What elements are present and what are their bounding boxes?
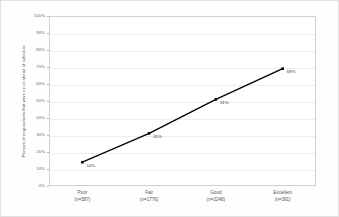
y-axis-tick-mark: [47, 152, 49, 153]
x-axis-category-count: (n=1776): [140, 196, 159, 203]
y-axis-tick-label: 80%: [23, 48, 45, 52]
y-axis-tick-mark: [47, 101, 49, 102]
x-axis-category-count: (n=391): [273, 196, 292, 203]
data-point-label: 14%: [86, 164, 95, 168]
x-axis-category-name: Fair: [140, 189, 159, 196]
y-axis-tick-mark: [47, 33, 49, 34]
data-point-label: 69%: [287, 70, 296, 74]
y-axis-tick-mark: [47, 118, 49, 119]
y-axis-tick-label: 10%: [23, 167, 45, 171]
y-axis-tick-mark: [47, 67, 49, 68]
y-axis-tick-mark: [47, 135, 49, 136]
y-axis-tick-mark: [47, 186, 49, 187]
series-marker: [148, 132, 151, 135]
x-axis-category-count: (n=2248): [207, 196, 226, 203]
line-series: [49, 16, 316, 186]
y-axis-tick-mark: [47, 84, 49, 85]
x-axis-tick-label: Excellent(n=391): [273, 189, 292, 203]
series-marker: [215, 98, 218, 101]
x-axis-category-name: Good: [207, 189, 226, 196]
data-point-label: 51%: [220, 101, 229, 105]
y-axis-tick-mark: [47, 50, 49, 51]
x-axis-tick-label: Fair(n=1776): [140, 189, 159, 203]
chart-figure: Percent of respondents that were on or a…: [0, 0, 339, 217]
x-axis-tick-labels: Poor(n=587)Fair(n=1776)Good(n=2248)Excel…: [49, 189, 316, 215]
y-axis-tick-label: 50%: [23, 99, 45, 103]
series-marker: [281, 67, 284, 70]
x-axis-tick-label: Poor(n=587): [74, 189, 90, 203]
data-point-label: 31%: [153, 135, 162, 139]
y-axis-tick-mark: [47, 16, 49, 17]
series-polyline: [82, 69, 282, 163]
y-axis-tick-label: 70%: [23, 65, 45, 69]
x-axis-category-name: Poor: [74, 189, 90, 196]
y-axis-tick-label: 90%: [23, 31, 45, 35]
x-axis-category-name: Excellent: [273, 189, 292, 196]
y-axis-tick-label: 100%: [23, 14, 45, 18]
y-axis-tick-labels: 0%10%20%30%40%50%60%70%80%90%100%: [23, 16, 47, 186]
x-axis-tick-label: Good(n=2248): [207, 189, 226, 203]
y-axis-tick-mark: [47, 169, 49, 170]
y-axis-tick-label: 0%: [23, 184, 45, 188]
x-axis-category-count: (n=587): [74, 196, 90, 203]
y-axis-tick-label: 30%: [23, 133, 45, 137]
y-axis-tick-label: 20%: [23, 150, 45, 154]
y-axis-tick-label: 40%: [23, 116, 45, 120]
series-marker: [81, 161, 84, 164]
y-axis-tick-label: 60%: [23, 82, 45, 86]
